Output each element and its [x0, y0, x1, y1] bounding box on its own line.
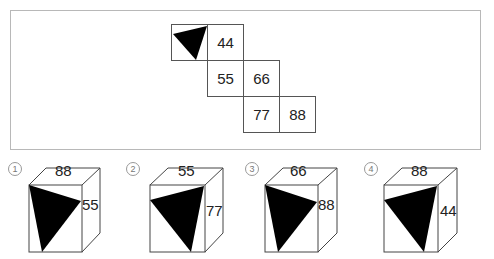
option-4[interactable]: 4 88 44: [364, 158, 484, 258]
net-face-55: 55: [207, 60, 244, 97]
side-face-label: 44: [440, 202, 457, 219]
option-3[interactable]: 3 66 88: [245, 158, 365, 258]
net-face-66: 66: [243, 60, 280, 97]
net-face-triangle: [171, 24, 208, 61]
top-face-label: 66: [290, 162, 307, 179]
net-face-44: 44: [207, 24, 244, 61]
top-face-label: 88: [411, 162, 428, 179]
option-1[interactable]: 1 88 55: [8, 158, 128, 258]
top-face-label: 88: [55, 162, 72, 179]
net-face-88: 88: [279, 96, 316, 133]
net-face-77: 77: [243, 96, 280, 133]
side-face-label: 88: [318, 196, 335, 213]
top-face-label: 55: [178, 162, 195, 179]
side-face-label: 55: [82, 196, 99, 213]
option-2[interactable]: 2 55 77: [126, 158, 246, 258]
black-triangle-icon: [172, 25, 209, 62]
side-face-label: 77: [206, 202, 223, 219]
